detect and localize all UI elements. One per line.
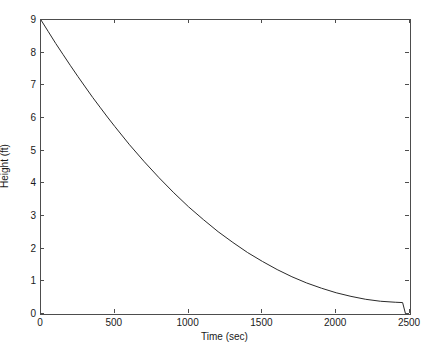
x-tick-label-1000: 1000 (176, 317, 198, 328)
y-tick-right-5 (405, 150, 409, 151)
y-tick-right-0 (405, 313, 409, 314)
series-line-tank-height (41, 20, 406, 314)
x-axis-label: Time (sec) (40, 331, 409, 342)
y-tick-right-3 (405, 215, 409, 216)
y-tick-label-3: 3 (30, 210, 36, 221)
x-tick-top-2500 (409, 19, 410, 23)
y-tick-label-1: 1 (30, 275, 36, 286)
y-tick-4 (40, 182, 44, 183)
y-tick-7 (40, 84, 44, 85)
y-tick-right-8 (405, 52, 409, 53)
y-tick-label-4: 4 (30, 177, 36, 188)
y-tick-6 (40, 117, 44, 118)
y-tick-right-9 (405, 19, 409, 20)
x-tick-label-2500: 2500 (398, 317, 420, 328)
x-tick-top-500 (114, 19, 115, 23)
y-axis-label: Height (ft) (0, 144, 10, 188)
y-tick-label-9: 9 (30, 14, 36, 25)
y-tick-1 (40, 280, 44, 281)
x-tick-top-1500 (261, 19, 262, 23)
y-tick-8 (40, 52, 44, 53)
x-tick-1000 (188, 309, 189, 313)
x-tick-label-500: 500 (105, 317, 122, 328)
y-tick-2 (40, 248, 44, 249)
y-tick-9 (40, 19, 44, 20)
y-tick-3 (40, 215, 44, 216)
chart-figure: 05001000150020002500 0123456789 Time (se… (0, 0, 441, 354)
x-tick-2000 (335, 309, 336, 313)
y-tick-right-2 (405, 248, 409, 249)
x-tick-1500 (261, 309, 262, 313)
y-tick-0 (40, 313, 44, 314)
plot-area (40, 19, 411, 315)
x-tick-500 (114, 309, 115, 313)
y-tick-label-5: 5 (30, 144, 36, 155)
y-tick-right-6 (405, 117, 409, 118)
x-tick-2500 (409, 309, 410, 313)
y-tick-label-6: 6 (30, 112, 36, 123)
y-tick-5 (40, 150, 44, 151)
y-tick-label-0: 0 (30, 308, 36, 319)
x-tick-top-2000 (335, 19, 336, 23)
x-tick-top-1000 (188, 19, 189, 23)
y-tick-label-2: 2 (30, 242, 36, 253)
x-tick-label-0: 0 (37, 317, 43, 328)
y-tick-right-1 (405, 280, 409, 281)
x-tick-label-1500: 1500 (250, 317, 272, 328)
y-tick-label-7: 7 (30, 79, 36, 90)
x-tick-label-2000: 2000 (324, 317, 346, 328)
y-tick-right-7 (405, 84, 409, 85)
y-tick-right-4 (405, 182, 409, 183)
data-curve (41, 20, 410, 314)
y-tick-label-8: 8 (30, 46, 36, 57)
